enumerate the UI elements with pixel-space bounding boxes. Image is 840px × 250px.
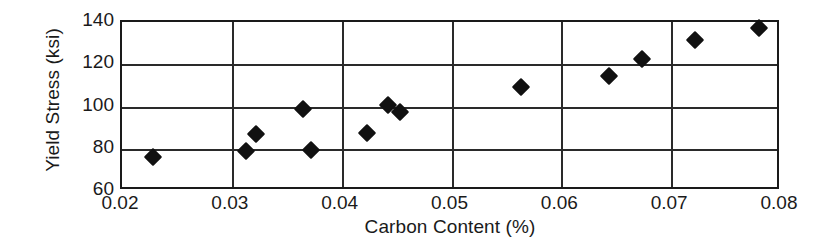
y-axis-tick-label: 100 [62, 94, 114, 116]
x-axis-tick-label: 0.02 [80, 192, 160, 214]
x-axis-tick-label: 0.03 [190, 192, 270, 214]
data-point-diamond [750, 19, 768, 37]
gridline-vertical [342, 22, 344, 187]
x-axis-tick-label: 0.05 [410, 192, 490, 214]
data-point-diamond [686, 31, 704, 49]
data-point-diamond [144, 148, 162, 166]
data-point-diamond [599, 67, 617, 85]
data-point-diamond [358, 124, 376, 142]
gridline-vertical [232, 22, 234, 187]
x-axis-title: Carbon Content (%) [120, 216, 780, 238]
scatter-chart: Yield Stress (ksi) 6080100120140 0.020.0… [0, 0, 840, 250]
gridline-vertical [671, 22, 673, 187]
plot-area [120, 20, 779, 189]
x-axis-tick-label: 0.07 [629, 192, 709, 214]
data-point-diamond [237, 142, 255, 160]
x-axis-tick-labels: 0.020.030.040.050.060.070.08 [120, 192, 779, 218]
gridline-horizontal [122, 64, 777, 66]
data-point-diamond [302, 141, 320, 159]
y-axis-tick-label: 120 [62, 51, 114, 73]
y-axis-tick-labels: 6080100120140 [58, 20, 114, 189]
x-axis-tick-label: 0.04 [300, 192, 380, 214]
x-axis-tick-label: 0.08 [739, 192, 819, 214]
gridline-horizontal [122, 149, 777, 151]
y-axis-tick-label: 140 [62, 9, 114, 31]
gridline-horizontal [122, 107, 777, 109]
gridline-vertical [561, 22, 563, 187]
x-axis-tick-label: 0.06 [519, 192, 599, 214]
y-axis-tick-label: 80 [62, 136, 114, 158]
data-point-diamond [294, 99, 312, 117]
data-point-diamond [247, 125, 265, 143]
gridline-vertical [452, 22, 454, 187]
data-point-diamond [511, 78, 529, 96]
